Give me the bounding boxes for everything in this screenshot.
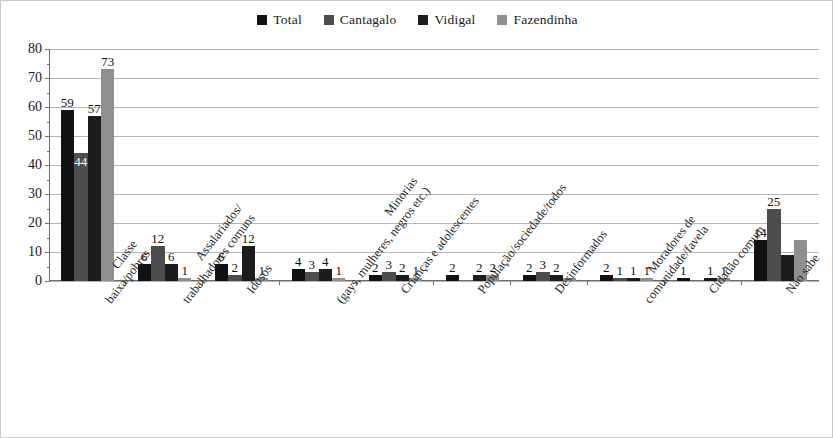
bar-slot-fazendinha: 1	[717, 49, 730, 281]
bar[interactable]: 44	[74, 153, 87, 281]
bar[interactable]: 3	[382, 272, 395, 281]
bar-slot-vidigal	[781, 49, 794, 281]
bar-slot-vidigal: 2	[550, 49, 563, 281]
bar-slot-fazendinha: 1	[255, 49, 268, 281]
bar-slot-cantagalo: 44	[74, 49, 87, 281]
bar-value-label: 44	[74, 155, 87, 168]
legend-label: Cantagalo	[340, 13, 397, 27]
y-tick-label: 60	[28, 100, 42, 114]
bar-slot-vidigal: 12	[242, 49, 255, 281]
bar[interactable]: 4	[292, 269, 305, 281]
bar-slot-total: 59	[61, 49, 74, 281]
bar-value-label: 2	[553, 261, 560, 274]
bar-value-label: 3	[386, 258, 393, 271]
bar-value-label: 2	[232, 261, 239, 274]
bar-slot-fazendinha: 1	[409, 49, 422, 281]
legend-item-total: Total	[257, 13, 302, 27]
bar-slot-cantagalo: 3	[305, 49, 318, 281]
bar[interactable]: 57	[88, 116, 101, 281]
bar-value-label: 73	[101, 55, 114, 68]
legend-item-fazendinha: Fazendinha	[497, 13, 577, 27]
bar[interactable]: 12	[151, 246, 164, 281]
bar-slot-total: 4	[292, 49, 305, 281]
bar-slot-fazendinha	[794, 49, 807, 281]
y-tick-label: 10	[28, 245, 42, 259]
bar-value-label: 57	[88, 102, 101, 115]
bar[interactable]: 73	[101, 69, 114, 281]
bar-value-label: 3	[309, 258, 316, 271]
bar-slot-vidigal: 1	[627, 49, 640, 281]
legend-item-cantagalo: Cantagalo	[324, 13, 397, 27]
bar-slot-fazendinha: 73	[101, 49, 114, 281]
bar[interactable]: 3	[536, 272, 549, 281]
bar-group: 4341	[280, 49, 357, 281]
bar-slot-vidigal: 1	[704, 49, 717, 281]
legend-swatch-icon	[324, 15, 334, 25]
bar-slot-fazendinha: 1	[332, 49, 345, 281]
bar-slot-fazendinha: 1	[640, 49, 653, 281]
bar-value-label: 25	[767, 195, 780, 208]
bar-slot-vidigal: 4	[319, 49, 332, 281]
legend-swatch-icon	[257, 15, 267, 25]
legend-swatch-icon	[497, 15, 507, 25]
bar-slot-fazendinha: 1	[178, 49, 191, 281]
chart-figure: TotalCantagaloVidigalFazendinha 01020304…	[0, 0, 833, 438]
bar-value-label: 2	[399, 261, 406, 274]
bar-value-label: 2	[476, 261, 483, 274]
legend-swatch-icon	[418, 15, 428, 25]
bar-slot-vidigal: 57	[88, 49, 101, 281]
bar-slot-vidigal: 6	[165, 49, 178, 281]
bar-value-label: 12	[151, 232, 164, 245]
bar-slot-fazendinha: 2	[486, 49, 499, 281]
bar-value-label: 59	[61, 96, 74, 109]
y-tick-label: 30	[28, 187, 42, 201]
bar-value-label: 4	[295, 255, 302, 268]
bar-value-label: 1	[617, 264, 624, 277]
legend-item-vidigal: Vidigal	[418, 13, 475, 27]
bar-slot-cantagalo	[459, 49, 472, 281]
bar-value-label: 4	[322, 255, 329, 268]
bar[interactable]: 59	[61, 110, 74, 281]
y-tick-label: 0	[35, 274, 42, 288]
bar-value-label: 2	[603, 261, 610, 274]
bar-group: 59445773	[49, 49, 126, 281]
bar-value-label: 6	[168, 250, 175, 263]
y-tick-label: 20	[28, 216, 42, 230]
bar-slot-cantagalo: 25	[767, 49, 780, 281]
bar[interactable]: 3	[305, 272, 318, 281]
bar-slot-cantagalo: 3	[536, 49, 549, 281]
bar-slot-cantagalo: 12	[151, 49, 164, 281]
y-tick-label: 50	[28, 129, 42, 143]
legend-label: Fazendinha	[513, 13, 577, 27]
bar-value-label: 2	[526, 261, 533, 274]
y-tick-label: 70	[28, 71, 42, 85]
bar-value-label: 2	[449, 261, 456, 274]
bar[interactable]: 25	[767, 209, 780, 282]
legend-label: Vidigal	[434, 13, 475, 27]
chart-legend: TotalCantagaloVidigalFazendinha	[1, 13, 833, 27]
y-tick-label: 40	[28, 158, 42, 172]
y-tick-label: 80	[28, 42, 42, 56]
bar-slot-fazendinha	[563, 49, 576, 281]
bar-slot-cantagalo: 1	[613, 49, 626, 281]
bar-slot-vidigal: 2	[473, 49, 486, 281]
bar-value-label: 3	[540, 258, 547, 271]
x-axis-category-labels: Classebaixa/pobresAssalariados/trabalhad…	[49, 281, 819, 431]
legend-label: Total	[273, 13, 302, 27]
bar-slot-vidigal: 2	[396, 49, 409, 281]
